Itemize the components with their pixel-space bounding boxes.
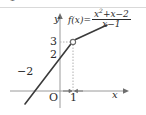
fraction-numerator: x2+x−2 xyxy=(92,10,131,19)
function-curve xyxy=(25,25,107,104)
formula-lhs: f(x)= xyxy=(68,15,91,25)
fraction: x2+x−2 x−1 xyxy=(92,10,131,30)
numerator-rest: +x−2 xyxy=(103,9,129,19)
x-tick-neg-2: −2 xyxy=(17,66,33,77)
function-formula: f(x)= x2+x−2 x−1 xyxy=(68,10,131,30)
origin-label: O xyxy=(49,92,58,103)
y-tick-3: 3 xyxy=(50,36,57,47)
x-tick-1: 1 xyxy=(70,92,77,103)
x-axis-label: x xyxy=(112,90,118,100)
y-axis-label: y xyxy=(54,14,60,24)
fraction-denominator: x−1 xyxy=(100,20,122,29)
y-tick-2: 2 xyxy=(50,49,57,60)
math-figure: −1 f(x)= xyxy=(0,0,146,115)
open-circle-hole xyxy=(70,39,75,44)
